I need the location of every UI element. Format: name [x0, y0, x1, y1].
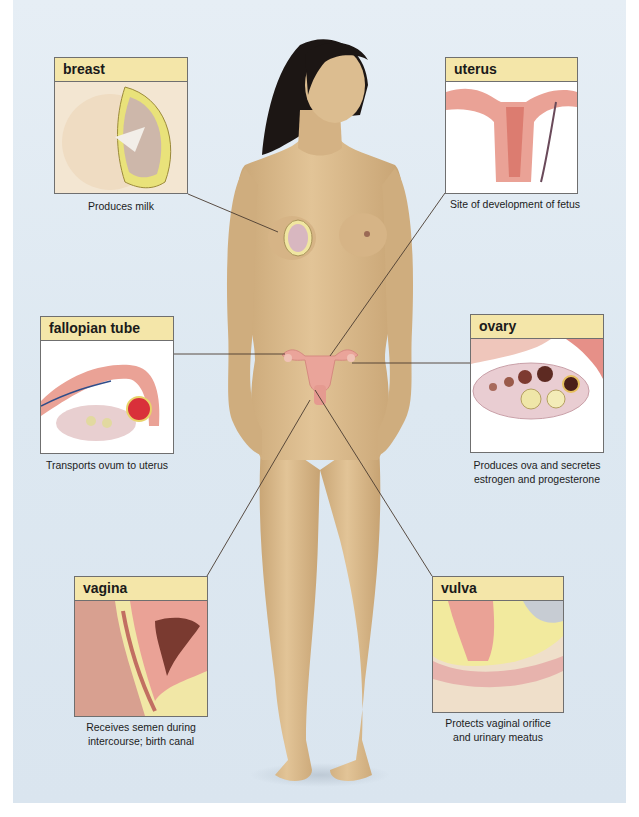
callout-ovary: ovary	[470, 314, 604, 453]
right-breast	[339, 213, 387, 257]
uterus-illustration	[446, 82, 577, 193]
right-leg	[320, 430, 380, 781]
left-leg	[260, 430, 320, 781]
torso	[236, 140, 403, 460]
caption-uterus: Site of development of fetus	[430, 197, 600, 211]
callout-label-ovary: ovary	[471, 315, 603, 339]
ovary-illustration	[471, 339, 603, 452]
left-ovary	[284, 354, 292, 362]
caption-vulva: Protects vaginal orifice and urinary mea…	[418, 716, 578, 744]
caption-ovary: Produces ova and secretes estrogen and p…	[455, 458, 619, 486]
callout-label-uterus: uterus	[446, 58, 577, 82]
callout-vagina: vagina	[74, 576, 208, 717]
callout-vulva: vulva	[432, 576, 564, 713]
fallopian-tube-illustration	[41, 341, 173, 453]
callout-label-fallopian-tube: fallopian tube	[41, 317, 173, 341]
caption-breast: Produces milk	[54, 199, 188, 213]
breast-illustration	[55, 82, 187, 193]
callout-label-breast: breast	[55, 58, 187, 82]
mammary-gland	[288, 224, 308, 252]
caption-vagina: Receives semen during intercourse; birth…	[64, 720, 218, 748]
callout-label-vulva: vulva	[433, 577, 563, 601]
vagina-illustration	[75, 601, 207, 716]
callout-breast: breast	[54, 57, 188, 194]
vulva-illustration	[433, 601, 563, 712]
vaginal-canal	[314, 385, 326, 405]
nipple	[364, 231, 370, 237]
callout-fallopian-tube: fallopian tube	[40, 316, 174, 454]
caption-fallopian-tube: Transports ovum to uterus	[30, 458, 184, 472]
callout-uterus: uterus	[445, 57, 578, 194]
callout-label-vagina: vagina	[75, 577, 207, 601]
right-ovary	[347, 354, 355, 362]
